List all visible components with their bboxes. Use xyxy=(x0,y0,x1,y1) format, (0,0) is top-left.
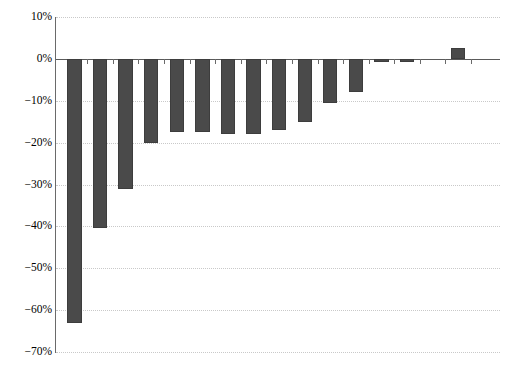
x-axis-tick xyxy=(87,59,88,64)
bar[interactable] xyxy=(195,59,209,132)
bar[interactable] xyxy=(272,59,286,130)
x-axis-tick xyxy=(266,59,267,64)
x-axis-tick xyxy=(113,59,114,64)
bar[interactable] xyxy=(374,59,388,62)
y-tick-label: −50% xyxy=(4,263,52,275)
x-axis-tick xyxy=(445,59,446,64)
x-axis-tick xyxy=(471,59,472,64)
gridline xyxy=(56,310,500,311)
x-axis-tick xyxy=(241,59,242,64)
gridline xyxy=(56,268,500,269)
bar[interactable] xyxy=(170,59,184,132)
y-tick-label: −60% xyxy=(4,304,52,316)
bar[interactable] xyxy=(246,59,260,134)
bar[interactable] xyxy=(451,48,465,58)
x-axis-tick xyxy=(318,59,319,64)
x-axis-tick xyxy=(138,59,139,64)
y-axis-tick-labels: 10%0%−10%−20%−30%−40%−50%−60%−70% xyxy=(0,0,52,369)
y-tick-label: −20% xyxy=(4,137,52,149)
bar[interactable] xyxy=(349,59,363,93)
x-axis-tick xyxy=(164,59,165,64)
y-tick-label: −40% xyxy=(4,221,52,233)
y-tick-label: 0% xyxy=(4,53,52,65)
plot-area xyxy=(56,17,500,352)
bar[interactable] xyxy=(118,59,132,189)
y-tick-label: 10% xyxy=(4,11,52,23)
bar[interactable] xyxy=(323,59,337,103)
gridline xyxy=(56,17,500,18)
x-axis-tick xyxy=(394,59,395,64)
x-axis-tick xyxy=(292,59,293,64)
bar[interactable] xyxy=(298,59,312,122)
bar[interactable] xyxy=(144,59,158,143)
y-tick-label: −70% xyxy=(4,346,52,358)
gridline xyxy=(56,226,500,227)
x-axis-tick xyxy=(190,59,191,64)
x-axis-tick xyxy=(215,59,216,64)
bar[interactable] xyxy=(400,59,414,62)
x-axis-tick xyxy=(343,59,344,64)
x-axis-tick xyxy=(369,59,370,64)
bar[interactable] xyxy=(67,59,81,323)
y-tick-label: −10% xyxy=(4,95,52,107)
bar[interactable] xyxy=(221,59,235,134)
y-tick-label: −30% xyxy=(4,179,52,191)
gridline xyxy=(56,352,500,353)
bar[interactable] xyxy=(93,59,107,229)
bar-chart: 10%0%−10%−20%−30%−40%−50%−60%−70% xyxy=(0,0,507,369)
x-axis-tick xyxy=(420,59,421,64)
